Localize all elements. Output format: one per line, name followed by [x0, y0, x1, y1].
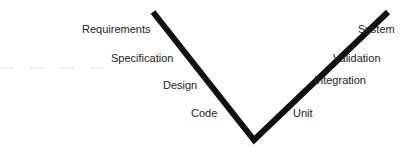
label-unit: Unit	[293, 107, 313, 120]
v-model-diagram: Requirements Specification Design Code S…	[0, 0, 407, 160]
label-requirements: Requirements	[82, 23, 150, 36]
label-specification: Specification	[111, 52, 173, 65]
label-validation: Validation	[333, 52, 381, 65]
label-integration: Integration	[314, 74, 366, 87]
label-code: Code	[191, 107, 217, 120]
label-design: Design	[163, 79, 197, 92]
label-system: System	[358, 23, 395, 36]
